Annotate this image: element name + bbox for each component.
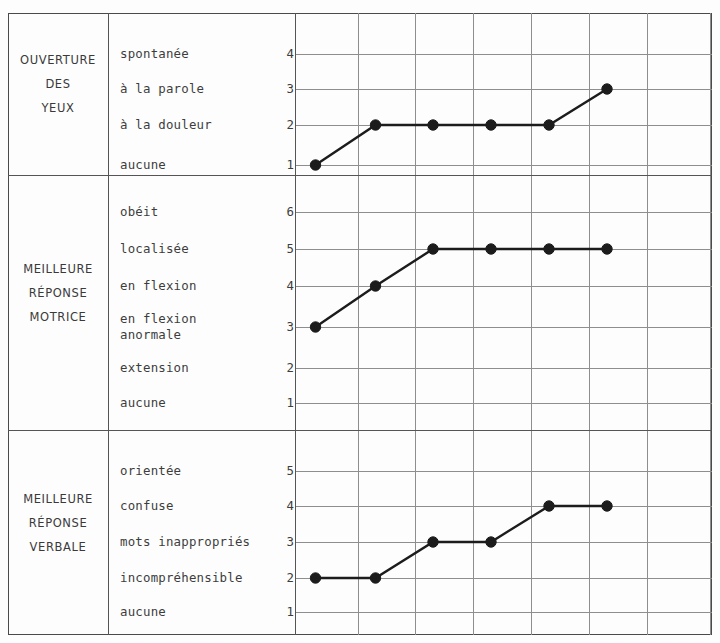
- scale-row-score: 2: [276, 570, 294, 585]
- data-point: [428, 537, 438, 547]
- series-line: [316, 249, 608, 327]
- scale-row-score: 3: [276, 319, 294, 334]
- scale-row-score: 5: [276, 463, 294, 478]
- scale-row-label: mots inappropriés: [120, 534, 250, 550]
- scale-row-score: 1: [276, 157, 294, 172]
- panel-motor-response: MEILLEURERÉPONSEMOTRICEobéit6localisée5e…: [8, 175, 712, 430]
- category-label-best-verbal-response: MEILLEURERÉPONSEVERBALE: [8, 482, 108, 566]
- scale-row-label: extension: [120, 360, 189, 376]
- panel-eye-opening: OUVERTUREDESYEUXspontanée4à la parole3à …: [8, 13, 712, 175]
- data-point: [602, 84, 612, 94]
- scale-row-score: 5: [276, 241, 294, 256]
- data-point: [486, 120, 496, 130]
- data-point: [370, 573, 380, 583]
- scale-row-score: 4: [276, 278, 294, 293]
- category-label-best-motor-response: MEILLEURERÉPONSEMOTRICE: [8, 252, 108, 336]
- glasgow-coma-scale-chart: OUVERTUREDESYEUXspontanée4à la parole3à …: [0, 0, 720, 643]
- data-point: [486, 537, 496, 547]
- data-point: [370, 120, 380, 130]
- column-separator-category: [108, 13, 109, 635]
- data-point: [544, 244, 554, 254]
- category-label-line: MOTRICE: [8, 311, 108, 324]
- scale-row-score: 3: [276, 534, 294, 549]
- scale-row-label: aucune: [120, 157, 166, 173]
- scale-row-score: 3: [276, 81, 294, 96]
- plot-area-eye-opening: [295, 13, 712, 175]
- column-separator-scale: [295, 13, 296, 635]
- data-point: [428, 244, 438, 254]
- panel-verbal-response: MEILLEURERÉPONSEVERBALEorientée5confuse4…: [8, 430, 712, 635]
- category-label-line: RÉPONSE: [8, 287, 108, 300]
- data-point: [486, 244, 496, 254]
- data-point: [602, 501, 612, 511]
- scale-row-score: 4: [276, 46, 294, 61]
- data-point: [310, 322, 320, 332]
- data-point: [310, 573, 320, 583]
- category-label-line: VERBALE: [8, 541, 108, 554]
- scale-row-label: en flexion: [120, 278, 197, 294]
- scale-row-score: 6: [276, 204, 294, 219]
- data-point: [310, 160, 320, 170]
- scale-row-score: 1: [276, 395, 294, 410]
- scale-row-label: incompréhensible: [120, 570, 243, 586]
- scale-row-label: en flexion anormale: [120, 311, 197, 343]
- scale-row-label: obéit: [120, 204, 158, 220]
- category-label-line: YEUX: [8, 102, 108, 115]
- data-point: [602, 244, 612, 254]
- series-line: [316, 89, 608, 165]
- data-point: [544, 501, 554, 511]
- scale-row-label: aucune: [120, 395, 166, 411]
- series-best-verbal-response: [295, 430, 712, 635]
- scale-row-label: aucune: [120, 604, 166, 620]
- category-label-line: RÉPONSE: [8, 517, 108, 530]
- category-label-line: OUVERTURE: [8, 54, 108, 67]
- data-point: [370, 281, 380, 291]
- category-label-line: MEILLEURE: [8, 493, 108, 506]
- scale-row-score: 2: [276, 360, 294, 375]
- data-point: [544, 120, 554, 130]
- scale-row-label: à la parole: [120, 81, 204, 97]
- scale-row-score: 2: [276, 117, 294, 132]
- category-label-line: DES: [8, 78, 108, 91]
- scale-row-label: spontanée: [120, 46, 189, 62]
- category-label-line: MEILLEURE: [8, 263, 108, 276]
- data-point: [428, 120, 438, 130]
- scale-row-label: orientée: [120, 463, 181, 479]
- series-line: [316, 506, 608, 578]
- scale-row-label: confuse: [120, 498, 174, 514]
- scale-row-label: localisée: [120, 241, 189, 257]
- panel-separator: [8, 175, 712, 176]
- series-best-motor-response: [295, 175, 712, 430]
- scale-row-score: 1: [276, 604, 294, 619]
- category-label-eye-opening: OUVERTUREDESYEUX: [8, 43, 108, 127]
- scale-row-label: à la douleur: [120, 117, 212, 133]
- panel-separator: [8, 430, 712, 431]
- series-eye-opening: [295, 13, 712, 175]
- plot-area-verbal-response: [295, 430, 712, 635]
- plot-area-motor-response: [295, 175, 712, 430]
- scale-row-score: 4: [276, 498, 294, 513]
